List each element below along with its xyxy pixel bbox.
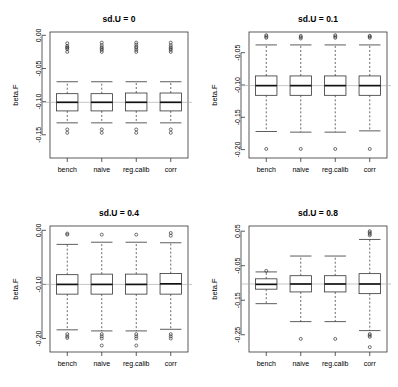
x-tick-label: reg.calib <box>123 166 150 174</box>
y-tick-label: -0.05 <box>234 258 241 274</box>
panel-sd-u-0-4: sd.U = 0.4beta.F0.00-0.10-0.20benchnaive… <box>0 194 199 387</box>
y-tick-label: -0.05 <box>35 60 42 76</box>
y-tick-label: -0.10 <box>234 77 241 93</box>
y-tick-label: -0.05 <box>234 45 241 61</box>
outlier-point <box>265 147 268 150</box>
panel-title: sd.U = 0 <box>103 14 136 24</box>
y-tick-label: -0.15 <box>234 109 241 125</box>
boxplot-corr <box>160 41 181 134</box>
panel-chart-3: sd.U = 0.8beta.F0.05-0.05-0.15-0.25bench… <box>199 194 398 387</box>
boxplot-corr <box>160 232 181 340</box>
panel-chart-2: sd.U = 0.4beta.F0.00-0.10-0.20benchnaive… <box>0 194 199 387</box>
boxplot-naive <box>91 41 112 134</box>
outlier-point <box>299 147 302 150</box>
outlier-point <box>334 337 337 340</box>
x-tick-label: naive <box>292 166 309 173</box>
boxplot-reg.calib <box>325 256 346 340</box>
y-axis-label: beta.F <box>11 84 20 106</box>
outlier-point <box>66 131 69 134</box>
boxplot-figure: sd.U = 0beta.F0.00-0.05-0.10-0.15benchna… <box>0 0 398 387</box>
boxplot-corr <box>359 34 380 150</box>
y-tick-label: 0.00 <box>35 223 42 237</box>
outlier-point <box>169 128 172 131</box>
y-axis-label: beta.F <box>11 278 20 300</box>
boxplot-reg.calib <box>126 41 147 134</box>
outlier-point <box>169 131 172 134</box>
outlier-point <box>66 128 69 131</box>
x-tick-label: naive <box>93 360 110 367</box>
outlier-point <box>100 128 103 131</box>
boxplot-reg.calib <box>126 233 147 347</box>
y-tick-label: -0.10 <box>35 276 42 292</box>
panel-chart-1: sd.U = 0.1beta.F-0.05-0.10-0.15-0.20benc… <box>199 0 398 193</box>
boxplot-bench <box>57 42 78 135</box>
boxplot-bench <box>57 232 78 339</box>
outlier-point <box>368 346 371 349</box>
y-tick-label: -0.15 <box>234 292 241 308</box>
outlier-point <box>334 147 337 150</box>
panel-title: sd.U = 0.1 <box>298 14 338 24</box>
y-axis-label: beta.F <box>210 278 219 300</box>
panel-sd-u-0-8: sd.U = 0.8beta.F0.05-0.05-0.15-0.25bench… <box>199 194 398 387</box>
outlier-point <box>100 344 103 347</box>
outlier-point <box>135 41 138 44</box>
panel-sd-u-0-1: sd.U = 0.1beta.F-0.05-0.10-0.15-0.20benc… <box>199 0 398 193</box>
panel-title: sd.U = 0.4 <box>99 208 139 218</box>
boxplot-naive <box>290 256 311 340</box>
panel-title: sd.U = 0.8 <box>298 208 338 218</box>
outlier-point <box>100 233 103 236</box>
x-tick-label: bench <box>58 166 77 173</box>
outlier-point <box>169 337 172 340</box>
x-tick-label: reg.calib <box>322 166 349 174</box>
boxplot-corr <box>359 230 380 349</box>
outlier-point <box>100 337 103 340</box>
y-tick-label: -0.20 <box>234 142 241 158</box>
outlier-point <box>368 147 371 150</box>
x-tick-label: bench <box>257 360 276 367</box>
outlier-point <box>299 337 302 340</box>
x-tick-label: corr <box>165 360 178 367</box>
y-tick-label: 0.05 <box>234 224 241 238</box>
x-tick-label: naive <box>93 166 110 173</box>
x-tick-label: bench <box>58 360 77 367</box>
y-tick-label: -0.25 <box>234 327 241 343</box>
y-tick-label: -0.20 <box>35 330 42 346</box>
x-tick-label: naive <box>292 360 309 367</box>
x-tick-label: corr <box>364 166 377 173</box>
outlier-point <box>135 233 138 236</box>
boxplot-naive <box>290 34 311 150</box>
x-tick-label: bench <box>257 166 276 173</box>
outlier-point <box>135 337 138 340</box>
x-tick-label: reg.calib <box>123 360 150 368</box>
x-tick-label: corr <box>165 166 178 173</box>
x-tick-label: corr <box>364 360 377 367</box>
boxplot-naive <box>91 233 112 347</box>
x-tick-label: reg.calib <box>322 360 349 368</box>
outlier-point <box>135 131 138 134</box>
boxplot-reg.calib <box>325 34 346 151</box>
outlier-point <box>135 128 138 131</box>
panel-chart-0: sd.U = 0beta.F0.00-0.05-0.10-0.15benchna… <box>0 0 199 193</box>
boxplot-bench <box>256 34 277 151</box>
y-tick-label: 0.00 <box>35 28 42 42</box>
y-tick-label: -0.15 <box>35 127 42 143</box>
y-tick-label: -0.10 <box>35 94 42 110</box>
panel-sd-u-0: sd.U = 0beta.F0.00-0.05-0.10-0.15benchna… <box>0 0 199 193</box>
boxplot-bench <box>256 269 277 303</box>
outlier-point <box>135 344 138 347</box>
outlier-point <box>100 131 103 134</box>
y-axis-label: beta.F <box>210 84 219 106</box>
